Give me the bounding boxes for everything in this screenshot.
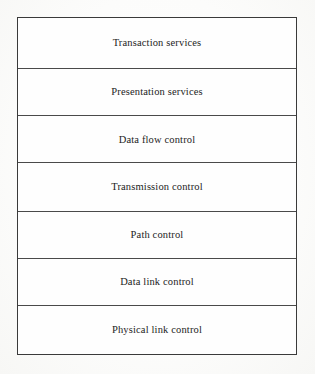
diagram-canvas: Transaction services Presentation servic… xyxy=(0,0,315,374)
layer-row: Physical link control xyxy=(18,306,296,354)
layer-label-data-link-control: Data link control xyxy=(120,276,194,288)
layer-label-physical-link-control: Physical link control xyxy=(112,324,202,336)
layer-row: Data flow control xyxy=(18,116,296,163)
layer-row: Transmission control xyxy=(18,163,296,212)
layer-label-path-control: Path control xyxy=(131,229,184,241)
layer-label-data-flow-control: Data flow control xyxy=(119,134,196,146)
layer-row: Path control xyxy=(18,212,296,259)
layer-label-presentation-services: Presentation services xyxy=(111,86,203,98)
layer-row: Transaction services xyxy=(18,18,296,69)
layer-row: Presentation services xyxy=(18,69,296,117)
layer-stack-diagram: Transaction services Presentation servic… xyxy=(17,17,297,355)
layer-row: Data link control xyxy=(18,259,296,307)
layer-label-transmission-control: Transmission control xyxy=(111,181,203,193)
layer-label-transaction-services: Transaction services xyxy=(113,37,202,49)
